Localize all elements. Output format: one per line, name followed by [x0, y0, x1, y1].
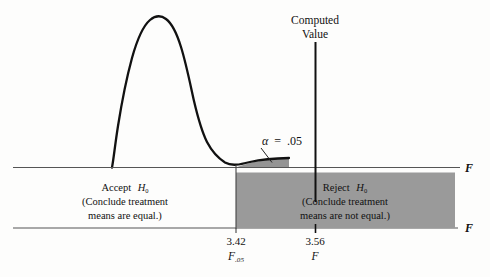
alpha-symbol: α	[262, 134, 268, 148]
reject-region-label: Reject H0 (Conclude treatment means are …	[300, 181, 390, 223]
accept-region-label-line1: Accept H0	[82, 181, 168, 195]
reject-text: Reject	[323, 182, 350, 193]
alpha-value: .05	[287, 134, 302, 148]
critical-value-number: 3.42	[226, 235, 245, 248]
accept-text: Accept	[101, 182, 131, 193]
critical-value-symbol-subscript: .05	[235, 256, 244, 264]
accept-region-label-line2: (Conclude treatment	[82, 195, 168, 209]
computed-value-number: 3.56	[305, 235, 324, 248]
accept-region-label: Accept H0 (Conclude treatment means are …	[82, 181, 168, 223]
critical-value-symbol: F.05	[228, 250, 244, 264]
reject-region-label-line1: Reject H0	[300, 181, 390, 195]
accept-hypothesis-subscript: 0	[145, 187, 148, 194]
bottom-axis-f-label: F	[465, 221, 473, 235]
f-distribution-figure: Computed Value α = .05 Accept H0 (Conclu…	[0, 0, 490, 277]
computed-value-label: Computed Value	[291, 13, 339, 41]
computed-value-label-line2: Value	[291, 27, 339, 41]
accept-region-label-line3: means are equal.)	[82, 209, 168, 223]
computed-value-symbol: F	[311, 250, 318, 264]
top-axis-f-label: F	[465, 161, 473, 175]
computed-value-label-line1: Computed	[291, 13, 339, 27]
accept-hypothesis-symbol: H0	[138, 182, 149, 193]
alpha-annotation: α = .05	[262, 134, 302, 148]
reject-region-label-line3: means are not equal.)	[300, 209, 390, 223]
alpha-equals-sign: =	[274, 134, 281, 148]
reject-region-label-line2: (Conclude treatment	[300, 195, 390, 209]
reject-hypothesis-subscript: 0	[364, 187, 367, 194]
reject-hypothesis-symbol: H0	[356, 182, 367, 193]
